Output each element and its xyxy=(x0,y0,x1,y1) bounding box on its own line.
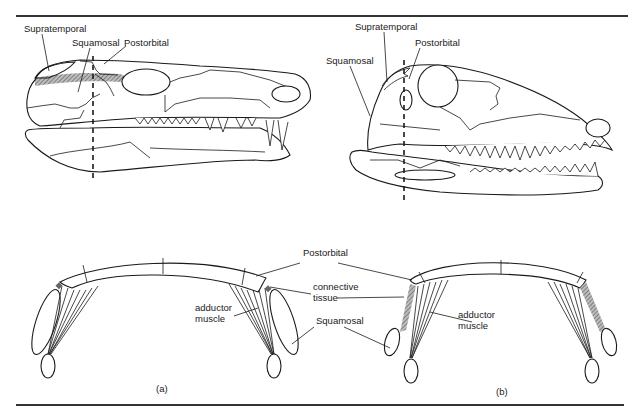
cross-section-b: adductor muscle (b) xyxy=(382,260,620,397)
section-a-adductor-leader xyxy=(234,308,258,316)
skull-a-cranium-outline xyxy=(27,60,311,126)
skull-comparison-diagram: Supratemporal Squamosal Postorbital Supr… xyxy=(0,0,640,417)
section-b-left-jaw xyxy=(404,359,418,383)
skull-b-temporal-fenestra xyxy=(400,90,412,110)
connective-tissue-label-2: tissue xyxy=(313,292,338,303)
skull-b-upper-teeth xyxy=(445,140,605,160)
squamosal-label: Squamosal xyxy=(316,315,364,326)
skull-b-lateral-view: Supratemporal Postorbital Squamosal xyxy=(326,21,612,200)
skull-b-postorbital-label: Postorbital xyxy=(415,37,460,48)
skull-b-supratemporal-leader xyxy=(384,32,387,82)
section-b-adductor-label-2: muscle xyxy=(458,320,488,331)
connective-tissue-leader-b xyxy=(337,297,404,298)
cross-section-a: adductor muscle (a) xyxy=(26,258,304,394)
skull-a-quadratojugal-suture xyxy=(60,110,84,128)
skull-b-maxilla-suture xyxy=(440,107,580,130)
skull-a-jaw-suture-2 xyxy=(150,148,265,152)
section-b-adductor-label-1: adductor xyxy=(458,309,495,320)
section-a-left-jaw xyxy=(41,354,55,378)
skull-a-nostril xyxy=(272,86,300,102)
skull-a-supratemporal-label: Supratemporal xyxy=(24,23,86,34)
skull-a-snout-suture-1 xyxy=(170,70,290,88)
squamosal-leader-b xyxy=(344,327,390,348)
skull-a-orbit xyxy=(122,69,170,95)
skull-a-lateral-view: Supratemporal Squamosal Postorbital xyxy=(24,23,310,182)
skull-a-snout-suture-2 xyxy=(165,95,270,112)
skull-b-orbit xyxy=(418,65,458,107)
skull-b-squamosal-label: Squamosal xyxy=(326,55,374,66)
connective-tissue-label-1: connective xyxy=(313,281,358,292)
section-b-skull-roof xyxy=(410,263,586,288)
skull-b-postorbital-leader xyxy=(409,48,420,79)
section-a-right-jaw xyxy=(267,354,281,378)
panel-a-caption: (a) xyxy=(156,383,168,394)
skull-a-teeth xyxy=(135,118,288,150)
skull-b-squamosal-leader xyxy=(350,66,370,116)
skull-a-supratemporal-leader xyxy=(42,34,49,71)
section-b-right-connective-tissue xyxy=(580,282,606,332)
skull-b-nostril xyxy=(586,119,610,137)
skull-b-cheek-suture xyxy=(380,124,440,130)
skull-a-postorbital-label: Postorbital xyxy=(124,37,169,48)
postorbital-leader-b xyxy=(338,263,412,280)
skull-a-lower-jaw xyxy=(25,127,290,172)
section-b-right-jaw xyxy=(585,359,599,383)
skull-a-jaw-suture xyxy=(50,142,150,158)
section-a-adductor-label-1: adductor xyxy=(195,302,232,313)
skull-b-lower-teeth xyxy=(470,162,598,176)
section-b-left-squamosal xyxy=(382,327,403,358)
skull-a-squamosal-leader xyxy=(78,48,90,92)
section-b-left-adductor-muscle xyxy=(410,280,448,358)
postorbital-label: Postorbital xyxy=(303,247,348,258)
skull-b-snout-suture xyxy=(455,80,500,110)
skull-a-lower-suture xyxy=(27,94,100,108)
section-a-adductor-label-2: muscle xyxy=(195,313,225,324)
skull-a-squamosal-label: Squamosal xyxy=(72,37,120,48)
skull-b-supratemporal-label: Supratemporal xyxy=(355,21,417,32)
postorbital-leader-a xyxy=(256,263,300,276)
panel-b-caption: (b) xyxy=(496,386,508,397)
section-a-right-adductor-muscle xyxy=(229,284,274,354)
